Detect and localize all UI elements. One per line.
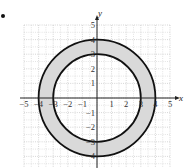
svg-text:4: 4 [153, 99, 158, 109]
svg-text:x: x [178, 93, 183, 103]
svg-text:−4: −4 [34, 99, 44, 109]
svg-text:−5: −5 [19, 99, 28, 109]
svg-text:2: 2 [91, 64, 95, 74]
svg-text:5: 5 [168, 99, 172, 109]
svg-text:2: 2 [124, 99, 128, 109]
svg-text:−1: −1 [86, 108, 95, 118]
svg-text:1: 1 [109, 99, 113, 109]
annulus-plot: xy−5−4−3−2−112345−5−4−3−2−112345 [0, 0, 184, 168]
svg-text:5: 5 [91, 20, 95, 30]
svg-text:−5: −5 [86, 166, 95, 168]
svg-text:−2: −2 [86, 122, 95, 132]
svg-text:1: 1 [91, 78, 95, 88]
svg-text:−4: −4 [86, 151, 96, 161]
svg-text:−3: −3 [86, 137, 95, 147]
svg-text:3: 3 [139, 99, 143, 109]
svg-text:y: y [97, 8, 102, 18]
svg-text:3: 3 [91, 49, 95, 59]
svg-text:−2: −2 [63, 99, 72, 109]
svg-text:−3: −3 [49, 99, 58, 109]
